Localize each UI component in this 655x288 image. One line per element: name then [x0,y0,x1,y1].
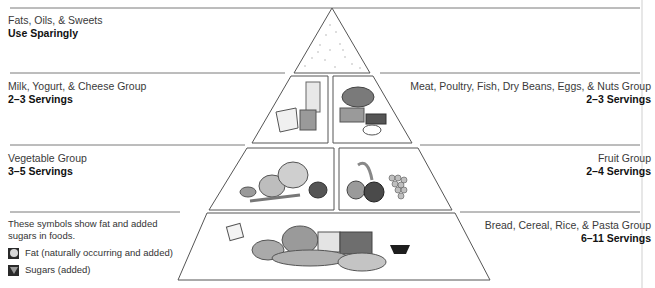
fat-circle-icon [8,248,19,259]
label-milk: Milk, Yogurt, & Cheese Group 2–3 Serving… [8,80,146,106]
label-vegetable: Vegetable Group 3–5 Servings [8,152,87,178]
legend-intro: These symbols show fat and added sugars … [8,218,183,242]
label-fats: Fats, Oils, & Sweets Use Sparingly [8,14,103,40]
tier-meat [333,76,412,143]
group-name: Milk, Yogurt, & Cheese Group [8,80,146,93]
group-name: Fruit Group [586,152,651,165]
servings: 2–4 Servings [586,165,651,178]
legend-item-fat: Fat (naturally occurring and added) [8,247,183,259]
legend-label: Sugars (added) [25,264,90,276]
servings: 6–11 Servings [485,232,651,245]
servings: 2–3 Servings [410,93,651,106]
tier-bread [178,213,490,280]
tier-fats-oils-sweets [294,8,370,73]
tier-fruit [339,148,452,210]
label-fruit: Fruit Group 2–4 Servings [586,152,651,178]
legend: These symbols show fat and added sugars … [8,218,183,276]
label-bread: Bread, Cereal, Rice, & Pasta Group 6–11 … [485,219,651,245]
servings: 3–5 Servings [8,165,87,178]
sugar-triangle-icon [8,265,19,276]
group-name: Bread, Cereal, Rice, & Pasta Group [485,219,651,232]
group-name: Meat, Poultry, Fish, Dry Beans, Eggs, & … [410,80,651,93]
legend-item-sugar: Sugars (added) [8,264,183,276]
group-name: Vegetable Group [8,152,87,165]
label-meat: Meat, Poultry, Fish, Dry Beans, Eggs, & … [410,80,651,106]
tier-milk [252,76,328,143]
group-name: Fats, Oils, & Sweets [8,14,103,27]
servings: Use Sparingly [8,27,103,40]
tier-vegetable [209,148,334,210]
servings: 2–3 Servings [8,93,146,106]
legend-label: Fat (naturally occurring and added) [25,247,173,259]
